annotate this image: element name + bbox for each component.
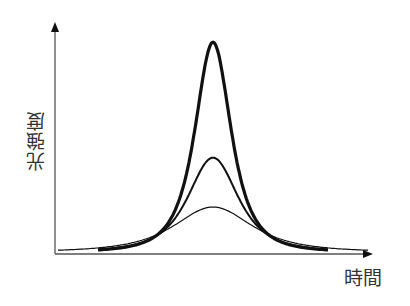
x-axis-arrow-icon xyxy=(363,250,373,258)
y-axis-arrow-icon xyxy=(51,22,59,32)
chart-canvas xyxy=(0,0,410,306)
curve-series-1 xyxy=(98,158,328,250)
y-axis-label: 光強度 xyxy=(22,96,44,186)
curves xyxy=(58,42,368,250)
x-axis-label: 時間 xyxy=(344,263,382,290)
axes xyxy=(51,22,373,258)
curve-series-0 xyxy=(98,42,328,250)
curve-series-2 xyxy=(58,207,368,250)
